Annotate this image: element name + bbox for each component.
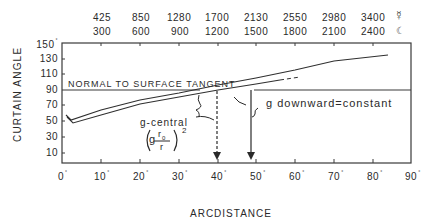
top-tick-mercury-4: 1700	[205, 12, 229, 23]
x-tick-0-value: 0	[58, 171, 64, 182]
arrowhead-40	[213, 152, 221, 160]
top-tick-moon-5: 1500	[244, 26, 268, 37]
y-tick-150: 150°	[28, 37, 58, 50]
x-tick-30-value: 30	[172, 171, 184, 182]
x-tick-0: 0°	[58, 169, 68, 182]
y-axis-label: CURTAIN ANGLE	[12, 47, 23, 142]
top-tick-mercury-5: 2130	[244, 12, 268, 23]
arrowhead-48	[247, 152, 255, 160]
y-tick-130: 130	[28, 53, 58, 64]
paren-right	[174, 130, 177, 151]
x-tick-10: 10°	[94, 169, 110, 182]
y-tick-110: 110	[28, 68, 58, 79]
degree-mark: °	[418, 169, 421, 175]
y-tick-50: 50	[28, 115, 58, 126]
degree-mark: °	[341, 169, 344, 175]
mercury-symbol-icon: ☿	[394, 8, 404, 23]
r0-subscript: 0	[162, 135, 166, 141]
degree-mark: °	[263, 169, 266, 175]
degree-mark: °	[146, 169, 149, 175]
degree-mark: °	[56, 37, 59, 43]
g-central-brace	[196, 95, 201, 117]
r-symbol: r	[160, 142, 164, 152]
x-tick-80: 80°	[367, 169, 383, 182]
top-tick-mercury-6: 2550	[283, 12, 307, 23]
exponent-2: 2	[182, 126, 187, 135]
x-tick-20-value: 20	[133, 171, 145, 182]
degree-mark: °	[65, 169, 68, 175]
x-tick-10-value: 10	[94, 171, 106, 182]
top-tick-moon-4: 1200	[205, 26, 229, 37]
normal-to-surface-label: NORMAL TO SURFACE TANGENT	[68, 79, 236, 89]
y-tick-90: 90	[28, 84, 58, 95]
degree-mark: °	[224, 169, 227, 175]
x-tick-90-value: 90	[405, 171, 417, 182]
top-tick-moon-6: 1800	[283, 26, 307, 37]
y-tick-10: 10	[28, 147, 58, 158]
top-tick-mercury-3: 1280	[167, 12, 191, 23]
top-tick-moon-3: 900	[171, 26, 189, 37]
top-tick-moon-2: 600	[132, 26, 150, 37]
top-tick-mercury-7: 2980	[322, 12, 346, 23]
g-downward-label: g downward=constant	[266, 97, 392, 109]
degree-mark: °	[185, 169, 188, 175]
top-tick-mercury-1: 425	[93, 12, 111, 23]
degree-mark: °	[302, 169, 305, 175]
x-tick-90: 90°	[405, 169, 421, 182]
top-tick-mercury-2: 850	[132, 12, 150, 23]
dashed-extension	[280, 77, 300, 80]
g-downward-leader	[234, 97, 246, 105]
x-tick-40-value: 40	[211, 171, 223, 182]
top-tick-moon-8: 2400	[361, 26, 385, 37]
x-tick-70: 70°	[328, 169, 344, 182]
degree-mark: °	[107, 169, 110, 175]
degree-mark: °	[380, 169, 383, 175]
top-tick-mercury-8: 3400	[361, 12, 385, 23]
y-tick-70: 70	[28, 99, 58, 110]
x-axis-ticks	[101, 159, 373, 163]
r0-symbol: r0	[158, 129, 166, 141]
x-tick-50: 50°	[250, 169, 266, 182]
g-central-label: g-central	[140, 117, 188, 128]
g-symbol: g	[149, 133, 156, 145]
chart-figure: 425 850 1280 1700 2130 2550 2980 3400 ☿ …	[0, 0, 432, 222]
x-tick-80-value: 80	[367, 171, 379, 182]
top-tick-moon-7: 2100	[322, 26, 346, 37]
x-tick-20: 20°	[133, 169, 149, 182]
x-tick-30: 30°	[172, 169, 188, 182]
x-tick-40: 40°	[211, 169, 227, 182]
x-tick-60: 60°	[289, 169, 305, 182]
x-tick-70-value: 70	[328, 171, 340, 182]
g-central-leader	[196, 116, 214, 120]
x-tick-50-value: 50	[250, 171, 262, 182]
moon-symbol-icon: ☾	[396, 25, 406, 36]
x-tick-60-value: 60	[289, 171, 301, 182]
g-downward-brace	[252, 108, 258, 117]
y-tick-150-value: 150	[36, 39, 54, 50]
x-axis-label: ARCDISTANCE	[190, 208, 272, 219]
top-tick-moon-1: 300	[93, 26, 111, 37]
y-tick-30: 30	[28, 131, 58, 142]
